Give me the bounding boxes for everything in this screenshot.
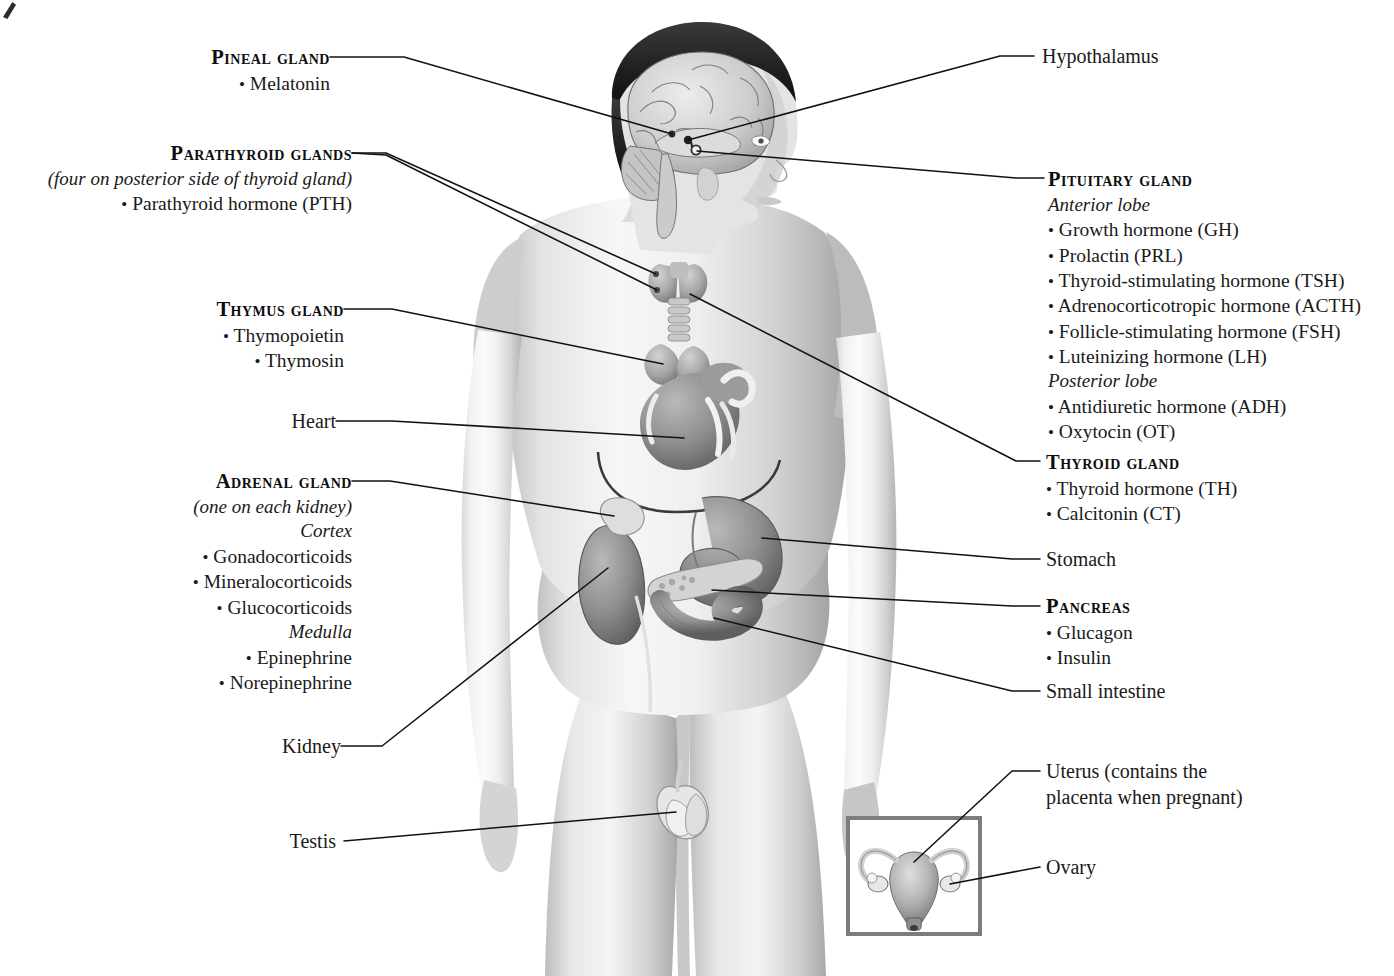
label-uterus[interactable]: Uterus (contains the placenta when pregn… xyxy=(1046,758,1243,810)
label-pineal-gland[interactable]: Pineal gland • Melatonin xyxy=(10,44,330,96)
bullet-dot: • xyxy=(1046,624,1052,643)
label-hypothalamus[interactable]: Hypothalamus xyxy=(1042,43,1159,69)
label-small-intestine[interactable]: Small intestine xyxy=(1046,678,1165,704)
leader-thymus xyxy=(344,309,663,364)
leader-ovary xyxy=(950,867,1040,884)
parathyroid-heading: Parathyroid glands xyxy=(0,140,352,167)
leader-pituitary xyxy=(697,151,1044,178)
pituitary-anterior-item-0: • Growth hormone (GH) xyxy=(1048,217,1361,242)
pituitary-posterior-item-1: • Oxytocin (OT) xyxy=(1048,419,1361,444)
leader-small-intestine xyxy=(714,618,1040,691)
adrenal-heading: Adrenal gland xyxy=(20,468,352,495)
pancreas-heading: Pancreas xyxy=(1046,593,1133,620)
thyroid-heading: Thyroid gland xyxy=(1046,449,1237,476)
label-testis[interactable]: Testis xyxy=(110,828,336,854)
bullet-dot: • xyxy=(254,352,260,371)
label-thyroid-gland[interactable]: Thyroid gland • Thyroid hormone (TH) • C… xyxy=(1046,449,1237,526)
leader-pineal xyxy=(330,57,672,134)
uterus-heading-line1: Uterus (contains the xyxy=(1046,758,1243,784)
bullet-dot: • xyxy=(1048,221,1054,240)
pancreas-item-1: • Insulin xyxy=(1046,645,1133,670)
pituitary-anterior-item-4: • Follicle-stimulating hormone (FSH) xyxy=(1048,319,1361,344)
pituitary-anterior-item-5: • Luteinizing hormone (LH) xyxy=(1048,344,1361,369)
leader-uterus xyxy=(914,771,1040,862)
leader-heart xyxy=(336,421,684,438)
thyroid-item-0: • Thyroid hormone (TH) xyxy=(1046,476,1237,501)
pituitary-posterior-item-0: • Antidiuretic hormone (ADH) xyxy=(1048,394,1361,419)
pituitary-anterior-item-2: • Thyroid-stimulating hormone (TSH) xyxy=(1048,268,1361,293)
thyroid-item-1: • Calcitonin (CT) xyxy=(1046,501,1237,526)
ovary-heading: Ovary xyxy=(1046,854,1096,880)
leader-testis xyxy=(344,812,676,841)
parathyroid-item-0: • Parathyroid hormone (PTH) xyxy=(0,191,352,216)
leader-adrenal xyxy=(352,481,614,516)
adrenal-medulla-item-0: • Epinephrine xyxy=(20,645,352,670)
stomach-heading: Stomach xyxy=(1046,546,1116,572)
label-stomach[interactable]: Stomach xyxy=(1046,546,1116,572)
bullet-dot: • xyxy=(1048,247,1054,266)
bullet-dot: • xyxy=(217,599,223,618)
label-heart[interactable]: Heart xyxy=(100,408,336,434)
leader-hypothalamus xyxy=(688,56,1034,140)
adrenal-group-cortex: Cortex xyxy=(20,519,352,544)
pancreas-item-0: • Glucagon xyxy=(1046,620,1133,645)
adrenal-cortex-item-1: • Mineralocorticoids xyxy=(20,569,352,594)
pituitary-group-posterior: Posterior lobe xyxy=(1048,369,1361,394)
leader-stomach xyxy=(762,538,1040,559)
bullet-dot: • xyxy=(223,327,229,346)
label-parathyroid-glands[interactable]: Parathyroid glands (four on posterior si… xyxy=(0,140,352,217)
adrenal-medulla-item-1: • Norepinephrine xyxy=(20,670,352,695)
label-ovary[interactable]: Ovary xyxy=(1046,854,1096,880)
uterus-heading-line2: placenta when pregnant) xyxy=(1046,784,1243,810)
bullet-dot: • xyxy=(1046,649,1052,668)
thymus-item-0: • Thymopoietin xyxy=(30,323,344,348)
leader-parathyroid-2 xyxy=(352,153,657,290)
endocrine-system-figure: Pineal gland • Melatonin Parathyroid gla… xyxy=(0,0,1394,976)
bullet-dot: • xyxy=(1048,297,1054,316)
label-thymus-gland[interactable]: Thymus gland • Thymopoietin • Thymosin xyxy=(30,296,344,373)
label-pancreas[interactable]: Pancreas • Glucagon • Insulin xyxy=(1046,593,1133,670)
label-pituitary-gland[interactable]: Pituitary gland Anterior lobe • Growth h… xyxy=(1048,166,1361,445)
pituitary-anterior-item-3: • Adrenocorticotropic hormone (ACTH) xyxy=(1048,293,1361,318)
thymus-item-1: • Thymosin xyxy=(30,348,344,373)
adrenal-cortex-item-0: • Gonadocorticoids xyxy=(20,544,352,569)
bullet-dot: • xyxy=(1046,480,1052,499)
leader-kidney xyxy=(341,568,608,746)
heart-heading: Heart xyxy=(100,408,336,434)
hypothalamus-heading: Hypothalamus xyxy=(1042,43,1159,69)
pituitary-group-anterior: Anterior lobe xyxy=(1048,193,1361,218)
adrenal-note: (one on each kidney) xyxy=(20,495,352,520)
bullet-dot: • xyxy=(203,548,209,567)
pituitary-anterior-item-1: • Prolactin (PRL) xyxy=(1048,243,1361,268)
bullet-dot: • xyxy=(219,674,225,693)
bullet-dot: • xyxy=(121,195,127,214)
bullet-dot: • xyxy=(193,573,199,592)
adrenal-group-medulla: Medulla xyxy=(20,620,352,645)
bullet-dot: • xyxy=(1048,323,1054,342)
bullet-dot: • xyxy=(1046,505,1052,524)
label-adrenal-gland[interactable]: Adrenal gland (one on each kidney) Corte… xyxy=(20,468,352,695)
leader-thyroid xyxy=(690,294,1040,461)
bullet-dot: • xyxy=(239,75,245,94)
pineal-heading: Pineal gland xyxy=(10,44,330,71)
bullet-dot: • xyxy=(1048,348,1054,367)
bullet-dot: • xyxy=(246,649,252,668)
small-intestine-heading: Small intestine xyxy=(1046,678,1165,704)
kidney-heading: Kidney xyxy=(100,733,341,759)
thymus-heading: Thymus gland xyxy=(30,296,344,323)
adrenal-cortex-item-2: • Glucocorticoids xyxy=(20,595,352,620)
pineal-item-0: • Melatonin xyxy=(10,71,330,96)
bullet-dot: • xyxy=(1048,398,1054,417)
bullet-dot: • xyxy=(1048,272,1054,291)
label-kidney[interactable]: Kidney xyxy=(100,733,341,759)
pituitary-heading: Pituitary gland xyxy=(1048,166,1361,193)
bullet-dot: • xyxy=(1048,423,1054,442)
testis-heading: Testis xyxy=(110,828,336,854)
leader-pancreas xyxy=(712,590,1040,606)
parathyroid-note: (four on posterior side of thyroid gland… xyxy=(0,167,352,192)
